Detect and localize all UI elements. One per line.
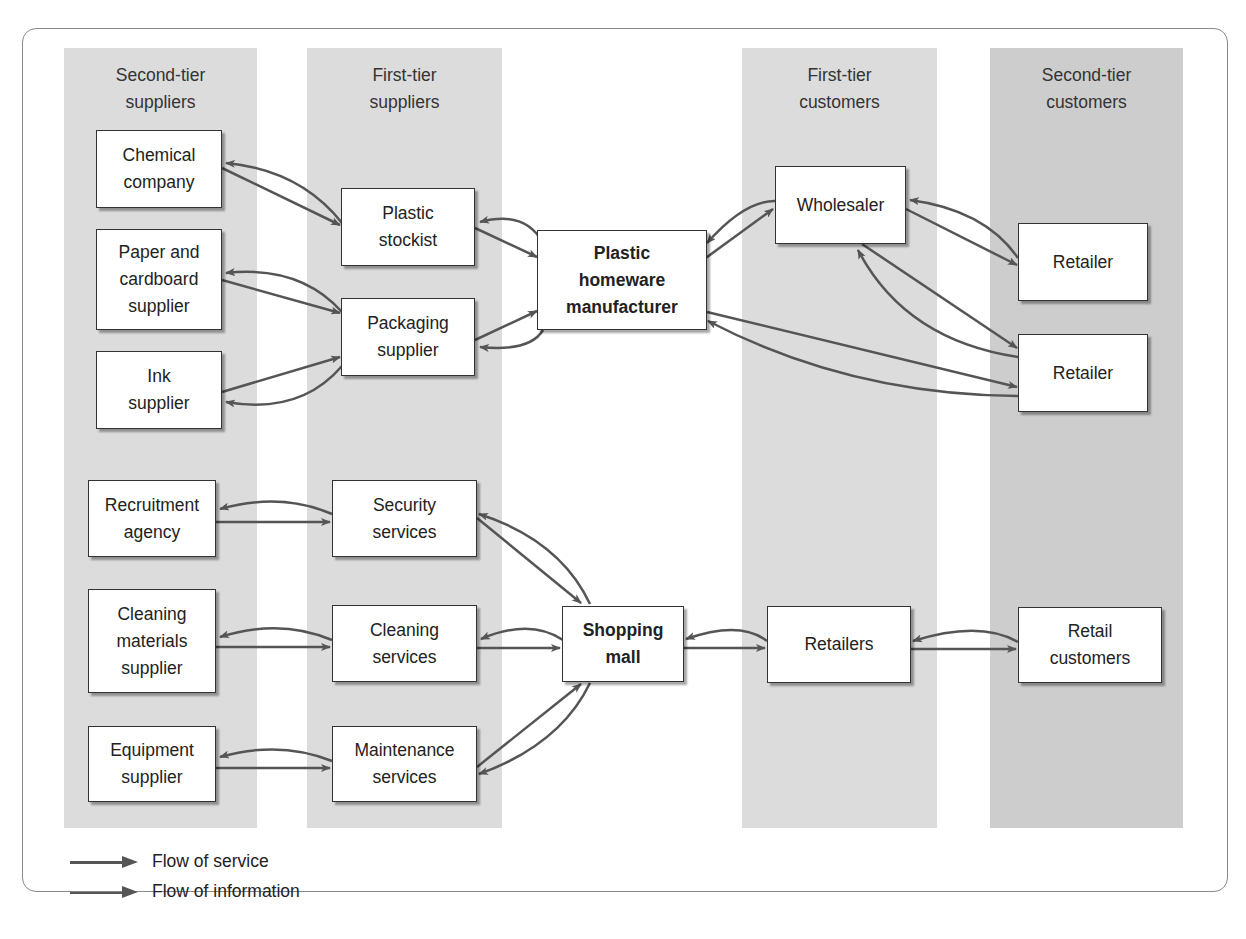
node-recruitment-agency[interactable]: Recruitmentagency [88,480,216,557]
node-label: Shopping [583,617,664,644]
node-label: services [354,764,454,791]
node-label: Equipment [110,737,194,764]
node-retailer-2[interactable]: Retailer [1018,334,1148,412]
node-chemical-company[interactable]: Chemicalcompany [96,130,222,208]
node-maintenance-services[interactable]: Maintenanceservices [332,726,477,802]
node-label: supplier [367,337,449,364]
node-label: Recruitment [105,492,199,519]
node-label: Cleaning [370,617,439,644]
node-plastic-stockist[interactable]: Plasticstockist [341,188,475,266]
arrow-service [222,280,340,313]
arrow-service [707,312,1017,387]
node-ink-supplier[interactable]: Inksupplier [96,351,222,429]
arrow-information [910,200,1018,258]
arrow-information [707,201,776,243]
node-label: supplier [110,764,194,791]
arrowhead-icon [122,886,138,898]
node-retailer-1[interactable]: Retailer [1018,223,1148,301]
arrow-information [226,163,342,223]
arrow-information [708,321,1018,396]
node-label: Maintenance [354,737,454,764]
node-label: homeware [566,267,678,294]
node-label: Paper and [119,239,200,266]
node-label: Plastic [379,200,437,227]
node-label: supplier [117,655,188,682]
node-label: agency [105,519,199,546]
arrow-service [477,684,581,767]
legend-label: Flow of service [152,851,269,872]
node-label: services [372,519,436,546]
node-label: Retailer [1053,249,1113,276]
arrow-information [479,683,590,774]
arrow-information [686,630,767,641]
node-label: materials [117,628,188,655]
node-label: Ink [128,363,189,390]
node-cleaning-materials-supplier[interactable]: Cleaningmaterialssupplier [88,589,216,693]
node-label: Packaging [367,310,449,337]
node-label: Retailer [1053,360,1113,387]
arrow-information [479,514,590,604]
node-shopping-mall[interactable]: Shoppingmall [562,606,684,682]
node-wholesaler[interactable]: Wholesaler [775,166,906,244]
arrow-information [480,219,543,243]
node-label: Cleaning [117,601,188,628]
arrow-information [220,749,332,761]
arrow-information [913,631,1018,642]
node-label: Retail [1050,618,1131,645]
node-equipment-supplier[interactable]: Equipmentsupplier [88,726,216,802]
arrow-information [858,250,1018,357]
arrow-service [475,228,537,257]
node-plastic-homeware-manufacturer[interactable]: Plastichomewaremanufacturer [537,230,707,330]
arrow-service [477,518,581,603]
arrow-information [226,272,342,312]
node-label: Plastic [566,240,678,267]
node-label: mall [583,644,664,671]
node-label: Retailers [804,631,873,658]
node-retailers[interactable]: Retailers [767,606,911,683]
node-label: services [370,644,439,671]
node-label: Wholesaler [797,192,885,219]
arrow-service [475,311,537,340]
node-label: stockist [379,227,437,254]
node-packaging-supplier[interactable]: Packagingsupplier [341,298,475,376]
arrow-information [481,629,563,640]
node-label: Chemical [123,142,196,169]
legend-label: Flow of information [152,881,300,902]
node-label: supplier [128,390,189,417]
node-security-services[interactable]: Securityservices [332,480,477,557]
node-label: company [123,169,196,196]
node-label: customers [1050,645,1131,672]
arrowhead-icon [122,856,138,868]
node-label: cardboard [119,266,200,293]
arrow-information [220,502,332,514]
arrow-service [222,357,340,392]
node-label: Security [372,492,436,519]
arrow-information [220,628,332,640]
node-label: manufacturer [566,294,678,321]
node-retail-customers[interactable]: Retailcustomers [1018,607,1162,683]
node-paper-cardboard-supplier[interactable]: Paper andcardboardsupplier [96,229,222,330]
node-cleaning-services[interactable]: Cleaningservices [332,605,477,682]
node-label: supplier [119,293,200,320]
